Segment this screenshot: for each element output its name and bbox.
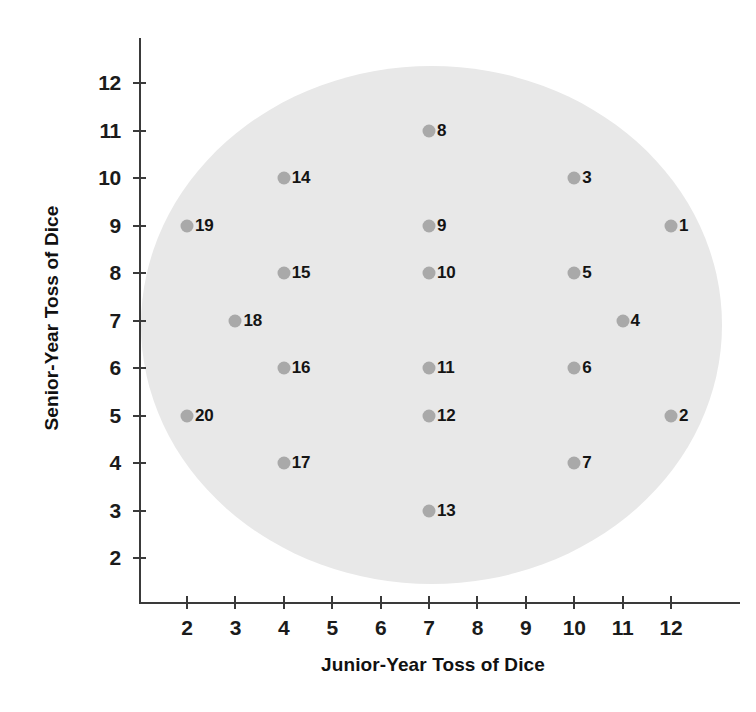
x-axis-tick-label: 12 (660, 616, 683, 640)
x-axis-tick-label: 5 (326, 616, 337, 640)
y-axis-tick (133, 510, 146, 512)
data-point[interactable] (423, 124, 436, 137)
data-point[interactable] (423, 504, 436, 517)
data-point-label: 1 (679, 216, 688, 236)
y-axis-tick-label: 2 (110, 546, 121, 570)
data-point[interactable] (568, 267, 581, 280)
x-axis-tick (670, 596, 672, 609)
x-axis-tick-label: 8 (472, 616, 483, 640)
x-axis-tick-label: 11 (612, 616, 634, 640)
data-point[interactable] (277, 457, 290, 470)
data-point[interactable] (568, 457, 581, 470)
data-point-label: 6 (582, 358, 591, 378)
data-point-label: 16 (292, 358, 311, 378)
x-axis-tick (476, 596, 478, 609)
x-axis-tick (380, 596, 382, 609)
data-point[interactable] (181, 409, 194, 422)
y-axis-tick-label: 8 (110, 261, 121, 285)
data-point[interactable] (229, 314, 242, 327)
x-axis-title: Junior-Year Toss of Dice (321, 654, 545, 676)
data-point-label: 15 (292, 263, 311, 283)
x-axis-tick (525, 596, 527, 609)
data-point-label: 7 (582, 453, 591, 473)
y-axis-tick (133, 367, 146, 369)
data-point-label: 18 (243, 311, 262, 331)
data-point-label: 11 (437, 358, 455, 378)
data-point[interactable] (568, 362, 581, 375)
y-axis-tick-label: 6 (110, 356, 121, 380)
data-point-label: 10 (437, 263, 456, 283)
data-point-label: 20 (195, 406, 214, 426)
data-point[interactable] (665, 409, 678, 422)
data-point-label: 17 (292, 453, 311, 473)
data-point[interactable] (277, 172, 290, 185)
data-point-label: 2 (679, 406, 688, 426)
y-axis-tick (133, 225, 146, 227)
x-axis-tick (283, 596, 285, 609)
x-axis-tick (331, 596, 333, 609)
x-axis-tick-label: 3 (230, 616, 241, 640)
x-axis-tick-label: 6 (375, 616, 386, 640)
data-point-label: 14 (292, 168, 311, 188)
x-axis-tick (186, 596, 188, 609)
scatter-plot-figure: 23456789101112 23456789101112 1234567891… (0, 0, 756, 712)
plot-area: 23456789101112 23456789101112 1234567891… (0, 0, 756, 712)
y-axis-tick (133, 415, 146, 417)
y-axis-tick-label: 12 (98, 71, 121, 95)
data-point[interactable] (181, 219, 194, 232)
y-axis-tick-label: 10 (98, 166, 121, 190)
y-axis-tick-label: 3 (110, 499, 121, 523)
y-axis-tick (133, 130, 146, 132)
data-point-label: 9 (437, 216, 446, 236)
x-axis-tick (428, 596, 430, 609)
data-point[interactable] (423, 409, 436, 422)
data-point[interactable] (423, 362, 436, 375)
data-point-label: 3 (582, 168, 591, 188)
y-axis-tick-label: 5 (110, 404, 121, 428)
data-point-label: 8 (437, 121, 446, 141)
x-axis-tick (573, 596, 575, 609)
x-axis-tick-label: 2 (181, 616, 192, 640)
y-axis-tick (133, 82, 146, 84)
data-point[interactable] (616, 314, 629, 327)
data-point[interactable] (277, 362, 290, 375)
x-axis-tick-label: 4 (278, 616, 289, 640)
y-axis-tick-label: 9 (110, 214, 121, 238)
data-point[interactable] (423, 267, 436, 280)
data-point[interactable] (665, 219, 678, 232)
data-point-label: 5 (582, 263, 591, 283)
data-point-label: 4 (631, 311, 640, 331)
x-axis-tick-label: 7 (423, 616, 434, 640)
x-axis-line (139, 602, 740, 604)
x-axis-tick-label: 9 (520, 616, 531, 640)
y-axis-tick (133, 272, 146, 274)
y-axis-tick-label: 11 (99, 119, 121, 143)
y-axis-tick-label: 4 (110, 451, 121, 475)
y-axis-tick (133, 557, 146, 559)
y-axis-tick (133, 462, 146, 464)
data-point-label: 19 (195, 216, 214, 236)
data-point[interactable] (568, 172, 581, 185)
y-axis-title: Senior-Year Toss of Dice (41, 206, 63, 431)
data-point-label: 12 (437, 406, 456, 426)
data-point-label: 13 (437, 501, 456, 521)
y-axis-tick (133, 320, 146, 322)
x-axis-tick (234, 596, 236, 609)
y-axis-tick-label: 7 (110, 309, 121, 333)
data-point[interactable] (423, 219, 436, 232)
x-axis-tick-label: 10 (563, 616, 586, 640)
data-point[interactable] (277, 267, 290, 280)
y-axis-tick (133, 177, 146, 179)
x-axis-tick (622, 596, 624, 609)
